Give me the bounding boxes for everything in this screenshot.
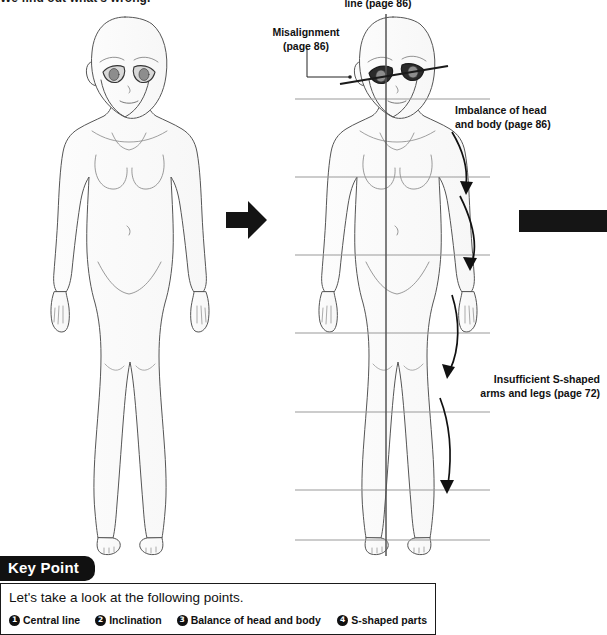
key-point-item-list: 1 Central line 2 Inclination 3 Balance o… [9, 614, 427, 626]
key-point-box: Let's take a look at the following point… [0, 583, 436, 635]
annotation-imbalance-line2: and body (page 86) [455, 118, 605, 132]
left-figure-group [51, 17, 209, 555]
annotation-imbalance-line1: Imbalance of head [455, 104, 605, 118]
key-point-item-2: 2 Inclination [95, 614, 162, 626]
annotation-misalignment: Misalignment (page 86) [258, 26, 354, 54]
annotation-misalignment-line2: (page 86) [258, 40, 354, 54]
annotation-imbalance: Imbalance of head and body (page 86) [455, 104, 605, 132]
numbered-bullet-icon-1: 1 [9, 615, 20, 626]
key-point-item-1-label: Central line [23, 614, 80, 626]
annotation-insufficient-line1: Insufficient S-shaped [430, 373, 600, 387]
key-point-item-4-label: S-shaped parts [351, 614, 427, 626]
key-point-item-2-label: Inclination [109, 614, 162, 626]
key-point-item-4: 4 S-shaped parts [337, 614, 427, 626]
annotation-misalignment-line1: Misalignment [258, 26, 354, 40]
annotation-central-line: line (page 86) [316, 0, 440, 11]
figures-illustration [0, 0, 607, 560]
key-point-tab-label: Key Point [0, 556, 95, 581]
numbered-bullet-icon-4: 4 [337, 615, 348, 626]
key-point-item-1: 1 Central line [9, 614, 80, 626]
transition-arrow-icon [222, 196, 270, 244]
sshape-arrowhead-2 [440, 480, 454, 494]
numbered-bullet-icon-2: 2 [95, 615, 106, 626]
annotation-insufficient-s-shape: Insufficient S-shaped arms and legs (pag… [430, 373, 600, 401]
key-point-lead: Let's take a look at the following point… [9, 590, 427, 607]
key-point-item-3-label: Balance of head and body [191, 614, 321, 626]
annotation-insufficient-line2: arms and legs (page 72) [430, 387, 600, 401]
figure-stage: line (page 86) Misalignment (page 86) Im… [0, 0, 607, 560]
numbered-bullet-icon-3: 3 [177, 615, 188, 626]
key-point-section: Key Point Let's take a look at the follo… [0, 556, 440, 635]
key-point-item-3: 3 Balance of head and body [177, 614, 321, 626]
right-figure-group [319, 17, 477, 555]
edge-black-bar [519, 210, 607, 232]
